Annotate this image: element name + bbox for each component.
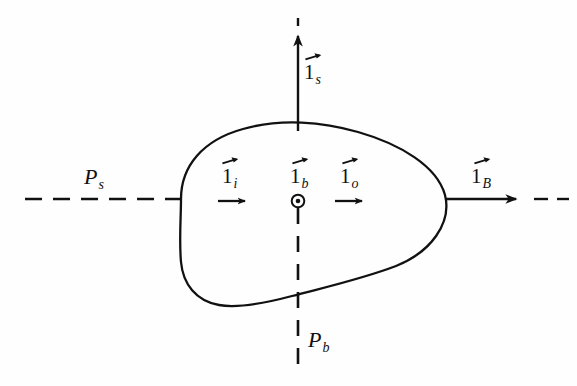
body-outline bbox=[180, 122, 446, 306]
label-vector-b-base: 1 bbox=[290, 164, 301, 188]
label-vector-s-base: 1 bbox=[304, 60, 315, 84]
vector-accent-icon bbox=[305, 53, 322, 62]
label-vector-B-base: 1 bbox=[471, 164, 482, 188]
label-body-plane: Pb bbox=[308, 329, 328, 351]
label-source-plane: Ps bbox=[84, 166, 103, 188]
label-vector-s-sub: s bbox=[316, 72, 321, 87]
label-body-plane-base: P bbox=[308, 327, 321, 352]
label-vector-i-base: 1 bbox=[222, 164, 233, 188]
label-source-plane-sub: s bbox=[98, 177, 103, 192]
label-vector-i-sub: i bbox=[234, 176, 238, 191]
label-vector-b: 1b bbox=[290, 166, 308, 187]
vector-accent-icon bbox=[222, 157, 239, 166]
label-vector-b-sub: b bbox=[302, 176, 309, 191]
label-vector-B-sub: B bbox=[483, 176, 492, 191]
label-vector-B: 1B bbox=[471, 166, 490, 187]
label-vector-s: 1s bbox=[304, 62, 320, 83]
diagram-svg bbox=[0, 0, 577, 386]
label-vector-o-sub: o bbox=[352, 176, 359, 191]
vector-accent-icon bbox=[342, 157, 359, 166]
vector-accent-icon bbox=[473, 157, 490, 166]
label-vector-o: 1o bbox=[340, 166, 358, 187]
vector-accent-icon bbox=[292, 157, 309, 166]
out-of-page-icon bbox=[292, 195, 305, 208]
label-source-plane-base: P bbox=[84, 164, 97, 189]
label-vector-i: 1i bbox=[222, 166, 236, 187]
label-body-plane-sub: b bbox=[322, 340, 329, 355]
figure-canvas: Ps Pb 1s 1i bbox=[0, 0, 577, 386]
label-vector-o-base: 1 bbox=[340, 164, 351, 188]
